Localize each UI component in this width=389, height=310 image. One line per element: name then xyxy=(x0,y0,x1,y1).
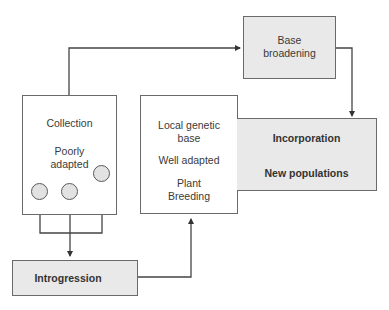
accession-circle-2 xyxy=(61,183,78,200)
node-local-genetic-base: Local genetic base Well adapted Plant Br… xyxy=(140,95,238,214)
collection-title: Collection xyxy=(23,117,116,130)
arrow-collection-to-base-broadening xyxy=(69,48,240,95)
well-adapted-label: Well adapted xyxy=(141,154,237,167)
accession-circle-3 xyxy=(93,165,110,182)
node-introgression: Introgression xyxy=(12,260,138,296)
collection-poorly: Poorly xyxy=(23,145,116,158)
local-genetic-line2: base xyxy=(141,132,237,145)
node-base-broadening: Base broadening xyxy=(243,16,336,79)
introgression-label: Introgression xyxy=(13,272,137,285)
incorporation-title: Incorporation xyxy=(237,132,376,145)
base-broadening-line2: broadening xyxy=(244,47,335,60)
accession-circle-1 xyxy=(31,183,48,200)
base-broadening-line1: Base xyxy=(244,34,335,47)
new-populations-label: New populations xyxy=(237,167,376,180)
arrow-base-broadening-to-incorporation xyxy=(335,48,352,116)
local-genetic-line1: Local genetic xyxy=(141,119,237,132)
arrow-introgression-to-local xyxy=(137,219,191,277)
breeding-label: Breeding xyxy=(141,190,237,203)
node-incorporation: Incorporation New populations xyxy=(237,118,377,191)
plant-label: Plant xyxy=(141,177,237,190)
